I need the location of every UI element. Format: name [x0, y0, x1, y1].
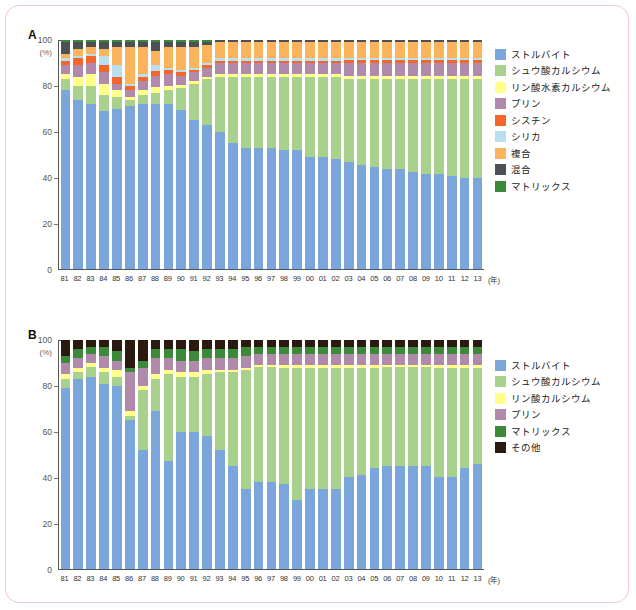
- stacked-bar-a-96[interactable]: [254, 40, 264, 269]
- stacked-bar-a-99[interactable]: [292, 40, 302, 269]
- stacked-bar-b-03[interactable]: [344, 340, 354, 569]
- bar-group[interactable]: [265, 340, 278, 569]
- bar-group[interactable]: [175, 340, 188, 569]
- bar-group[interactable]: [239, 40, 252, 269]
- bar-group[interactable]: [355, 340, 368, 569]
- stacked-bar-a-08[interactable]: [408, 40, 418, 269]
- bar-group[interactable]: [304, 340, 317, 569]
- bar-group[interactable]: [98, 340, 111, 569]
- bar-group[interactable]: [458, 40, 471, 269]
- bar-group[interactable]: [252, 340, 265, 569]
- bar-group[interactable]: [136, 40, 149, 269]
- stacked-bar-a-90[interactable]: [176, 40, 186, 269]
- stacked-bar-b-07[interactable]: [395, 340, 405, 569]
- stacked-bar-b-06[interactable]: [382, 340, 392, 569]
- stacked-bar-a-03[interactable]: [344, 40, 354, 269]
- legend-item-a-1[interactable]: シュウ酸カルシウム: [495, 63, 611, 80]
- stacked-bar-b-84[interactable]: [99, 340, 109, 569]
- bar-group[interactable]: [59, 40, 72, 269]
- bar-group[interactable]: [201, 40, 214, 269]
- stacked-bar-b-10[interactable]: [434, 340, 444, 569]
- bar-group[interactable]: [420, 340, 433, 569]
- bar-group[interactable]: [342, 40, 355, 269]
- bar-group[interactable]: [201, 340, 214, 569]
- stacked-bar-b-85[interactable]: [112, 340, 122, 569]
- stacked-bar-a-84[interactable]: [99, 40, 109, 269]
- stacked-bar-a-95[interactable]: [241, 40, 251, 269]
- stacked-bar-a-91[interactable]: [189, 40, 199, 269]
- bar-group[interactable]: [162, 40, 175, 269]
- stacked-bar-a-04[interactable]: [357, 40, 367, 269]
- bar-group[interactable]: [291, 40, 304, 269]
- bar-group[interactable]: [188, 340, 201, 569]
- bar-group[interactable]: [111, 340, 124, 569]
- bar-group[interactable]: [329, 340, 342, 569]
- stacked-bar-b-08[interactable]: [408, 340, 418, 569]
- bar-group[interactable]: [136, 340, 149, 569]
- bar-group[interactable]: [432, 40, 445, 269]
- stacked-bar-b-82[interactable]: [73, 340, 83, 569]
- bar-group[interactable]: [149, 340, 162, 569]
- stacked-bar-b-05[interactable]: [370, 340, 380, 569]
- stacked-bar-b-99[interactable]: [292, 340, 302, 569]
- legend-item-a-3[interactable]: プリン: [495, 96, 611, 113]
- stacked-bar-a-85[interactable]: [112, 40, 122, 269]
- stacked-bar-b-87[interactable]: [138, 340, 148, 569]
- stacked-bar-a-89[interactable]: [164, 40, 174, 269]
- bar-group[interactable]: [123, 40, 136, 269]
- bar-group[interactable]: [407, 340, 420, 569]
- stacked-bar-b-02[interactable]: [331, 340, 341, 569]
- legend-item-a-8[interactable]: マトリックス: [495, 178, 611, 195]
- stacked-bar-b-94[interactable]: [228, 340, 238, 569]
- stacked-bar-b-83[interactable]: [86, 340, 96, 569]
- bar-group[interactable]: [342, 340, 355, 569]
- bar-group[interactable]: [252, 40, 265, 269]
- bar-group[interactable]: [368, 40, 381, 269]
- bar-group[interactable]: [407, 40, 420, 269]
- bar-group[interactable]: [214, 40, 227, 269]
- bar-group[interactable]: [291, 340, 304, 569]
- bar-group[interactable]: [226, 40, 239, 269]
- stacked-bar-b-12[interactable]: [460, 340, 470, 569]
- bar-group[interactable]: [304, 40, 317, 269]
- bar-group[interactable]: [471, 340, 484, 569]
- legend-item-a-6[interactable]: 複合: [495, 145, 611, 162]
- stacked-bar-a-09[interactable]: [421, 40, 431, 269]
- bar-group[interactable]: [445, 340, 458, 569]
- stacked-bar-a-81[interactable]: [61, 40, 71, 269]
- stacked-bar-b-81[interactable]: [61, 340, 71, 569]
- legend-item-b-1[interactable]: シュウ酸カルシウム: [495, 374, 601, 391]
- stacked-bar-b-01[interactable]: [318, 340, 328, 569]
- stacked-bar-b-86[interactable]: [125, 340, 135, 569]
- legend-item-a-0[interactable]: ストルバイト: [495, 46, 611, 63]
- bar-group[interactable]: [239, 340, 252, 569]
- stacked-bar-a-97[interactable]: [267, 40, 277, 269]
- stacked-bar-b-88[interactable]: [151, 340, 161, 569]
- bar-group[interactable]: [85, 340, 98, 569]
- stacked-bar-a-93[interactable]: [215, 40, 225, 269]
- bar-group[interactable]: [317, 340, 330, 569]
- stacked-bar-b-98[interactable]: [279, 340, 289, 569]
- stacked-bar-b-95[interactable]: [241, 340, 251, 569]
- stacked-bar-a-87[interactable]: [138, 40, 148, 269]
- bar-group[interactable]: [85, 40, 98, 269]
- stacked-bar-b-11[interactable]: [447, 340, 457, 569]
- stacked-bar-a-01[interactable]: [318, 40, 328, 269]
- stacked-bar-a-88[interactable]: [151, 40, 161, 269]
- stacked-bar-a-07[interactable]: [395, 40, 405, 269]
- stacked-bar-b-93[interactable]: [215, 340, 225, 569]
- legend-item-b-0[interactable]: ストルバイト: [495, 357, 601, 374]
- stacked-bar-a-11[interactable]: [447, 40, 457, 269]
- bar-group[interactable]: [381, 340, 394, 569]
- stacked-bar-b-09[interactable]: [421, 340, 431, 569]
- legend-item-b-4[interactable]: マトリックス: [495, 423, 601, 440]
- stacked-bar-a-98[interactable]: [279, 40, 289, 269]
- stacked-bar-b-90[interactable]: [176, 340, 186, 569]
- bar-group[interactable]: [214, 340, 227, 569]
- bar-group[interactable]: [368, 340, 381, 569]
- bar-group[interactable]: [278, 40, 291, 269]
- stacked-bar-b-04[interactable]: [357, 340, 367, 569]
- stacked-bar-a-06[interactable]: [382, 40, 392, 269]
- stacked-bar-a-94[interactable]: [228, 40, 238, 269]
- bar-group[interactable]: [317, 40, 330, 269]
